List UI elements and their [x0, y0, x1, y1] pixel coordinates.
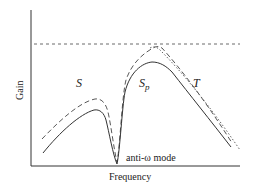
region-label-sp-sub: p — [144, 82, 150, 92]
gain-curve-solid — [43, 62, 231, 164]
region-label-s: S — [76, 76, 82, 90]
gain-curve-dashed — [42, 47, 232, 162]
gain-diagram: S Sp T anti-ω mode Frequency Gain — [0, 0, 253, 193]
region-label-sp: Sp — [139, 76, 150, 92]
gain-curve-dotted — [150, 47, 240, 150]
y-axis-label: Gain — [14, 81, 25, 100]
x-axis-label: Frequency — [109, 171, 151, 182]
region-label-t: T — [193, 76, 201, 90]
anti-omega-mode-label: anti-ω mode — [126, 152, 176, 163]
